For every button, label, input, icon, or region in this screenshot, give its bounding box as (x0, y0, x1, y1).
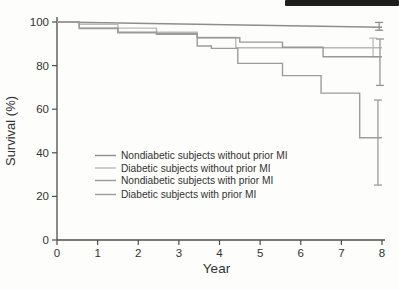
y-tick-label: 0 (43, 234, 49, 246)
x-tick-label: 8 (379, 247, 385, 259)
survival-curve-3 (57, 22, 382, 138)
legend-label-0: Nondiabetic subjects without prior MI (121, 150, 287, 161)
x-tick-label: 0 (54, 247, 60, 259)
x-tick-label: 5 (257, 247, 263, 259)
x-tick-label: 7 (338, 247, 344, 259)
y-tick-label: 100 (30, 16, 49, 28)
x-tick-label: 4 (216, 247, 223, 259)
x-tick-label: 2 (135, 247, 141, 259)
kaplan-meier-chart: 020406080100012345678YearSurvival (%)Non… (0, 0, 399, 290)
legend-label-1: Diabetic subjects without prior MI (121, 163, 270, 174)
x-axis-title: Year (203, 261, 231, 276)
y-tick-label: 80 (36, 60, 49, 72)
scan-artifact-bar (285, 0, 399, 6)
survival-chart-figure: 020406080100012345678YearSurvival (%)Non… (0, 0, 399, 290)
x-tick-label: 1 (94, 247, 100, 259)
y-tick-label: 60 (36, 103, 49, 115)
x-tick-label: 6 (298, 247, 304, 259)
legend-label-2: Nondiabetic subjects with prior MI (121, 175, 273, 186)
survival-curve-2 (57, 22, 382, 57)
legend-label-3: Diabetic subjects with prior MI (121, 189, 256, 200)
y-tick-label: 20 (36, 190, 49, 202)
y-axis-title: Survival (%) (3, 96, 18, 166)
x-tick-label: 3 (176, 247, 182, 259)
y-tick-label: 40 (36, 147, 49, 159)
